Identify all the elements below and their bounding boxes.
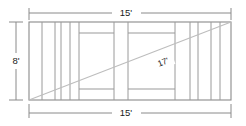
bottom-dimension-label: 15'	[120, 107, 133, 118]
diagonal-brace-group: 17'	[29, 22, 231, 100]
top-dimension-group: 15'	[29, 7, 231, 20]
diagram-canvas: 15' 8' 15'	[0, 0, 246, 126]
left-dimension-group: 8'	[9, 22, 23, 100]
diagonal-brace-line	[29, 22, 231, 100]
left-dimension-label: 8'	[12, 55, 19, 66]
bottom-dimension-group: 15'	[29, 104, 231, 118]
top-dimension-label: 15'	[120, 7, 133, 18]
deck-framing-diagram: 15' 8' 15'	[0, 0, 246, 126]
